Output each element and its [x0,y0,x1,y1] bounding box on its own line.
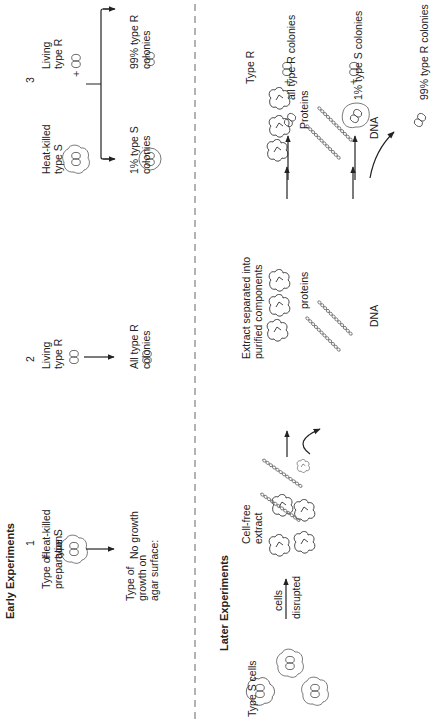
results-layer: all type R colonies 1% type S colonies 9… [0,0,433,719]
results-graphics [0,0,433,719]
result-99pct-type-r: 99% type R colonies [418,4,430,100]
result-1pct-type-s: 1% type S colonies [352,11,364,100]
result-all-type-r: all type R colonies [285,15,297,100]
